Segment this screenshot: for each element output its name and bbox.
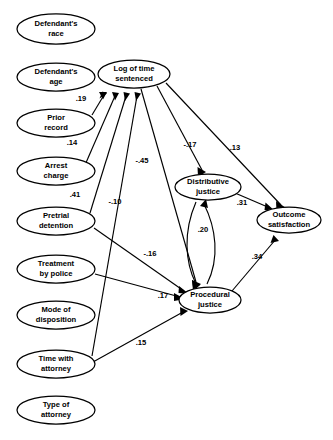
node-label-line1: Arrest xyxy=(45,161,68,170)
edge-prior-record-to-log-of-time-sentenced xyxy=(92,92,107,116)
node-label-line2: justice xyxy=(195,187,220,196)
node-label-line1: Treatment xyxy=(38,259,75,268)
coefficient-label-pretrial-detention-sentence: .41 xyxy=(70,190,81,199)
edge-distributive-justice-procedural-justice-correlation xyxy=(187,199,215,291)
node-label-line1: Prior xyxy=(47,113,65,122)
node-label-line2: age xyxy=(49,77,62,86)
coefficient-label-distributive-outcome: .31 xyxy=(237,198,248,207)
coefficient-label-time-with-attorney-sentence: -.10 xyxy=(108,197,121,206)
edge-procedural-justice-to-outcome-satisfaction xyxy=(232,235,279,291)
node-label-line2: disposition xyxy=(36,315,77,324)
edge-time-with-attorney-to-procedural-justice xyxy=(93,307,188,362)
node-distributive-justice[interactable]: Distributive justice xyxy=(175,174,241,200)
node-label-line2: charge xyxy=(44,171,69,180)
node-procedural-justice[interactable]: Procedural justice xyxy=(179,287,241,313)
node-layer: Defendant's race Defendant's age Prior r… xyxy=(17,14,321,424)
node-label-line1: Outcome xyxy=(273,210,306,219)
node-label-line2: race xyxy=(48,29,64,38)
node-label-line1: Defendant's xyxy=(34,67,77,76)
coefficient-label-pretrial-detention-procedural: -.16 xyxy=(143,249,156,258)
node-prior-record[interactable]: Prior record xyxy=(17,109,95,137)
node-label-line1: Pretrial xyxy=(43,211,69,220)
node-label-line2: satisfaction xyxy=(268,220,311,229)
node-label-line2: attorney xyxy=(41,410,72,419)
coefficient-label-sentence-outcome: .13 xyxy=(230,143,241,152)
node-label-line2: sentenced xyxy=(115,74,153,83)
node-pretrial-detention[interactable]: Pretrial detention xyxy=(17,207,95,235)
node-log-of-time-sentenced[interactable]: Log of time sentenced xyxy=(98,60,170,88)
path-diagram-canvas: Defendant's race Defendant's age Prior r… xyxy=(0,0,333,440)
node-label-line2: detention xyxy=(39,221,74,230)
path-diagram: Defendant's race Defendant's age Prior r… xyxy=(0,0,333,440)
edge-pretrial-detention-to-log-of-time-sentenced xyxy=(90,92,130,213)
node-time-with-attorney[interactable]: Time with attorney xyxy=(17,350,95,378)
node-type-of-attorney[interactable]: Type of attorney xyxy=(17,396,95,424)
node-label-line1: Distributive xyxy=(187,177,229,186)
coefficient-label-sentence-distributive: -.17 xyxy=(183,140,196,149)
coefficient-label-distributive-procedural: .20 xyxy=(198,225,209,234)
node-label-line2: attorney xyxy=(41,364,72,373)
node-label-line2: by police xyxy=(40,269,73,278)
coefficient-label-arrest-charge: .14 xyxy=(67,138,78,147)
edge-layer xyxy=(85,83,286,362)
node-defendants-race[interactable]: Defendant's race xyxy=(17,14,95,44)
coefficient-label-treatment-by-police-procedural: .17 xyxy=(158,291,169,300)
node-defendants-age[interactable]: Defendant's age xyxy=(17,63,95,91)
node-label-line1: Log of time xyxy=(114,64,155,73)
node-label-line2: justice xyxy=(197,300,222,309)
node-outcome-satisfaction[interactable]: Outcome satisfaction xyxy=(257,207,321,233)
node-label-line1: Time with xyxy=(39,354,74,363)
node-arrest-charge[interactable]: Arrest charge xyxy=(17,157,95,185)
node-label-line2: record xyxy=(44,123,68,132)
coefficient-label-time-with-attorney-procedural: .15 xyxy=(136,338,147,347)
node-label-line1: Mode of xyxy=(41,305,71,314)
coefficient-label-prior-record: .19 xyxy=(76,94,87,103)
coefficient-label-procedural-outcome: .34 xyxy=(252,252,263,261)
node-label-line1: Type of xyxy=(43,400,70,409)
node-label-line1: Defendant's xyxy=(34,19,77,28)
coefficient-label-sentence-procedural: -.45 xyxy=(135,156,149,165)
edge-treatment-by-police-to-procedural-justice xyxy=(95,274,185,301)
node-label-line1: Procedural xyxy=(190,290,230,299)
node-treatment-by-police[interactable]: Treatment by police xyxy=(17,255,95,283)
node-mode-of-disposition[interactable]: Mode of disposition xyxy=(17,301,95,329)
